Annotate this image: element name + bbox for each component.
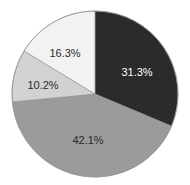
slice-label: 42.1% [72, 134, 103, 146]
pie-slices [12, 11, 178, 177]
slice-label: 10.2% [27, 79, 58, 91]
slice-label: 31.3% [121, 66, 152, 78]
pie-chart: 31.3%42.1%10.2%16.3% [0, 0, 190, 185]
slice-label: 16.3% [49, 47, 80, 59]
